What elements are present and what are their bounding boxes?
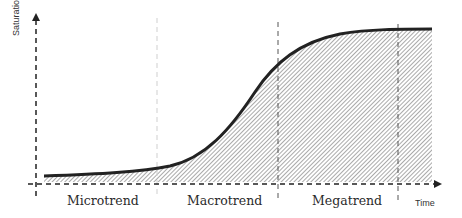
x-axis-label: Time [415, 198, 435, 208]
y-axis-label: Saturation [11, 0, 21, 36]
phase-label-microtrend: Microtrend [67, 193, 139, 208]
phase-label-megatrend: Megatrend [312, 193, 382, 208]
saturation-area [44, 29, 432, 182]
phase-label-macrotrend: Macrotrend [187, 193, 262, 208]
s-curve-diagram [0, 0, 462, 218]
y-axis-arrow-icon [32, 13, 40, 21]
x-axis-arrow-icon [434, 180, 442, 188]
